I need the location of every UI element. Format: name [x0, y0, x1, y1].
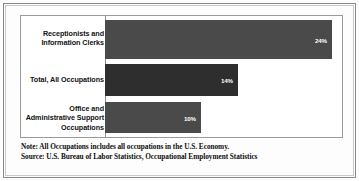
category-label-line: Office and [22, 104, 104, 113]
bar-office-and-administrative-support-occupations[interactable]: 10% [105, 102, 201, 133]
chart-figure: Receptionists and Information Clerks 24%… [0, 0, 359, 181]
bar-value-label: 24% [315, 36, 327, 43]
bar-row: Total, All Occupations 14% [20, 64, 343, 96]
footnotes: Note: All Occupations includes all occup… [21, 142, 346, 163]
bar-value-label: 14% [221, 77, 233, 84]
bar-row: Receptionists and Information Clerks 24% [20, 20, 343, 60]
bar-row: Office and Administrative Support Occupa… [20, 102, 343, 133]
category-label-line: Information Clerks [22, 38, 104, 47]
category-label-line: Administrative Support [22, 113, 104, 122]
source-text: Source: U.S. Bureau of Labor Statistics,… [21, 152, 346, 162]
category-label-line: Receptionists and [22, 29, 104, 38]
category-label-line: Total, All Occupations [22, 75, 104, 84]
note-text: Note: All Occupations includes all occup… [21, 142, 346, 152]
category-label: Receptionists and Information Clerks [22, 29, 104, 48]
category-label: Office and Administrative Support Occupa… [22, 104, 104, 132]
bar-receptionists-and-information-clerks[interactable]: 24% [105, 20, 332, 59]
category-label-line: Occupations [22, 123, 104, 132]
bar-value-label: 10% [184, 114, 196, 121]
bar-total-all-occupations[interactable]: 14% [105, 64, 238, 96]
category-label: Total, All Occupations [22, 75, 104, 84]
